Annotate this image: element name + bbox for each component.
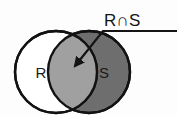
venn-diagram-figure: R S R∩S: [0, 0, 177, 115]
intersection-label: R∩S: [104, 11, 141, 30]
venn-diagram-canvas: R S R∩S: [0, 0, 177, 115]
set-r-label: R: [36, 64, 47, 81]
set-s-label: S: [99, 64, 109, 81]
